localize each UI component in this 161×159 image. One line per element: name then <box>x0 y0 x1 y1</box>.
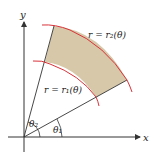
y-axis-label: y <box>19 9 26 20</box>
inner-curve-label: r = r₁(θ) <box>44 85 82 95</box>
theta1-label: θ₁ <box>53 125 62 135</box>
polar-region-diagram: x y r = r₂(θ) r = r₁(θ) θ₂ θ₁ <box>0 0 161 159</box>
x-axis-label: x <box>143 132 149 143</box>
theta2-label: θ₂ <box>29 119 38 129</box>
outer-curve-label: r = r₂(θ) <box>88 30 126 40</box>
